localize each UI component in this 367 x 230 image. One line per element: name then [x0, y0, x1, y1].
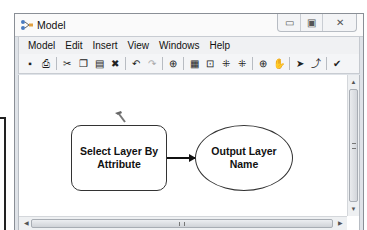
- tool-node-select-layer-by-attribute[interactable]: Select Layer By Attribute: [71, 125, 167, 191]
- toolbar: ▪ ⎙ ✂ ❐ ▤ ✖ ↶ ↷ ⊕ ▦ ⊡ ⁜ ⁜ ⊕ ✋ ➤ ⤴ ✔: [18, 54, 360, 74]
- add-data-icon: ⊕: [169, 59, 177, 69]
- toolbar-separator: [326, 57, 327, 70]
- scroll-up-arrow-icon[interactable]: ▲: [348, 77, 359, 87]
- horizontal-scroll-thumb[interactable]: [31, 219, 333, 228]
- model-app-icon: [20, 19, 34, 31]
- menu-edit[interactable]: Edit: [60, 37, 87, 54]
- auto-layout-icon: ▦: [190, 59, 199, 69]
- model-canvas[interactable]: Select Layer By Attribute Output Layer N…: [19, 75, 347, 216]
- data-node-label: Output Layer Name: [196, 145, 292, 170]
- hammer-icon: [112, 110, 128, 124]
- print-icon: ⎙: [42, 59, 50, 69]
- close-icon: ✕: [336, 17, 344, 28]
- grip-icon: [179, 222, 185, 226]
- horizontal-scrollbar[interactable]: ◀ ▶: [19, 216, 347, 230]
- minimize-icon: ▭: [285, 17, 294, 28]
- window-title: Model: [37, 19, 66, 31]
- toolbar-separator: [252, 57, 253, 70]
- connect-icon: ⤴: [311, 59, 321, 69]
- title-bar[interactable]: Model ▭ ▣ ✕: [15, 14, 363, 37]
- model-window: Model ▭ ▣ ✕ Model Edit Insert View Windo…: [14, 13, 364, 230]
- delete-icon: ✖: [111, 59, 119, 69]
- validate-button[interactable]: ✔: [330, 57, 344, 71]
- full-extent-icon: ⊡: [206, 59, 214, 69]
- menu-view[interactable]: View: [123, 37, 155, 54]
- connect-button[interactable]: ⤴: [309, 57, 323, 71]
- fixed-zoom-in-button[interactable]: ⁜: [219, 57, 233, 71]
- validate-icon: ✔: [333, 59, 341, 69]
- vertical-scroll-thumb[interactable]: [349, 89, 358, 202]
- select-button[interactable]: ➤: [293, 57, 307, 71]
- background-window-edge: [0, 117, 6, 230]
- toolbar-separator: [56, 57, 57, 70]
- pan-icon: ✋: [273, 59, 285, 69]
- cut-icon: ✂: [63, 59, 71, 69]
- toolbar-separator: [162, 57, 163, 70]
- pan-button[interactable]: ✋: [272, 57, 286, 71]
- delete-button[interactable]: ✖: [108, 57, 122, 71]
- menu-insert[interactable]: Insert: [87, 37, 122, 54]
- menu-model[interactable]: Model: [23, 37, 60, 54]
- scroll-down-arrow-icon[interactable]: ▼: [348, 204, 359, 214]
- toolbar-separator: [125, 57, 126, 70]
- paste-button[interactable]: ▤: [92, 57, 106, 71]
- maximize-button[interactable]: ▣: [300, 14, 322, 31]
- menu-help[interactable]: Help: [205, 37, 236, 54]
- toolbar-separator: [183, 57, 184, 70]
- minimize-button[interactable]: ▭: [278, 14, 300, 31]
- paste-icon: ▤: [95, 59, 104, 69]
- select-icon: ➤: [296, 59, 304, 69]
- screen: Model ▭ ▣ ✕ Model Edit Insert View Windo…: [0, 0, 367, 230]
- menu-windows[interactable]: Windows: [154, 37, 205, 54]
- fixed-zoom-out-icon: ⁜: [238, 59, 246, 69]
- cut-button[interactable]: ✂: [60, 57, 74, 71]
- copy-icon: ❐: [79, 59, 88, 69]
- scroll-left-arrow-icon[interactable]: ◀: [21, 217, 31, 230]
- redo-icon: ↷: [148, 59, 156, 69]
- zoom-in-icon: ⊕: [259, 59, 267, 69]
- close-button[interactable]: ✕: [322, 14, 356, 31]
- fixed-zoom-out-button[interactable]: ⁜: [235, 57, 249, 71]
- save-icon: ▪: [28, 59, 32, 69]
- menu-bar: Model Edit Insert View Windows Help: [18, 37, 360, 54]
- fixed-zoom-in-icon: ⁜: [222, 59, 230, 69]
- copy-button[interactable]: ❐: [76, 57, 90, 71]
- print-button[interactable]: ⎙: [39, 57, 53, 71]
- redo-button[interactable]: ↷: [145, 57, 159, 71]
- save-button[interactable]: ▪: [23, 57, 37, 71]
- maximize-icon: ▣: [307, 17, 316, 28]
- tool-node-label: Select Layer By Attribute: [72, 145, 166, 170]
- vertical-scrollbar[interactable]: ▲ ▼: [347, 75, 359, 216]
- toolbar-separator: [289, 57, 290, 70]
- full-extent-button[interactable]: ⊡: [203, 57, 217, 71]
- zoom-in-button[interactable]: ⊕: [256, 57, 270, 71]
- data-node-output-layer-name[interactable]: Output Layer Name: [195, 125, 293, 191]
- undo-button[interactable]: ↶: [129, 57, 143, 71]
- model-canvas-area: Select Layer By Attribute Output Layer N…: [18, 75, 360, 230]
- undo-icon: ↶: [132, 59, 140, 69]
- add-data-button[interactable]: ⊕: [166, 57, 180, 71]
- scroll-right-arrow-icon[interactable]: ▶: [335, 217, 345, 230]
- window-controls: ▭ ▣ ✕: [277, 14, 357, 32]
- auto-layout-button[interactable]: ▦: [187, 57, 201, 71]
- grip-icon: [352, 143, 356, 149]
